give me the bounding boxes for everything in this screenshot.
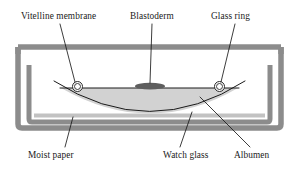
leader-vitelline-membrane bbox=[60, 24, 75, 82]
albumen-fill bbox=[61, 88, 238, 114]
label-vitelline-membrane: Vitelline membrane bbox=[21, 12, 96, 21]
leader-glass-ring bbox=[221, 24, 235, 82]
leader-blastoderm bbox=[150, 24, 152, 83]
label-blastoderm: Blastoderm bbox=[130, 12, 174, 21]
label-moist-paper: Moist paper bbox=[28, 151, 74, 160]
label-watch-glass: Watch glass bbox=[163, 151, 209, 160]
blastoderm-blob bbox=[135, 83, 165, 90]
glass-ring-left bbox=[73, 82, 83, 92]
label-glass-ring: Glass ring bbox=[211, 12, 250, 21]
label-albumen: Albumen bbox=[234, 151, 269, 160]
diagram-canvas bbox=[0, 0, 299, 173]
moist-paper-strip bbox=[34, 114, 265, 118]
figure-container: Vitelline membrane Blastoderm Glass ring… bbox=[0, 0, 299, 173]
glass-ring-right bbox=[215, 82, 225, 92]
